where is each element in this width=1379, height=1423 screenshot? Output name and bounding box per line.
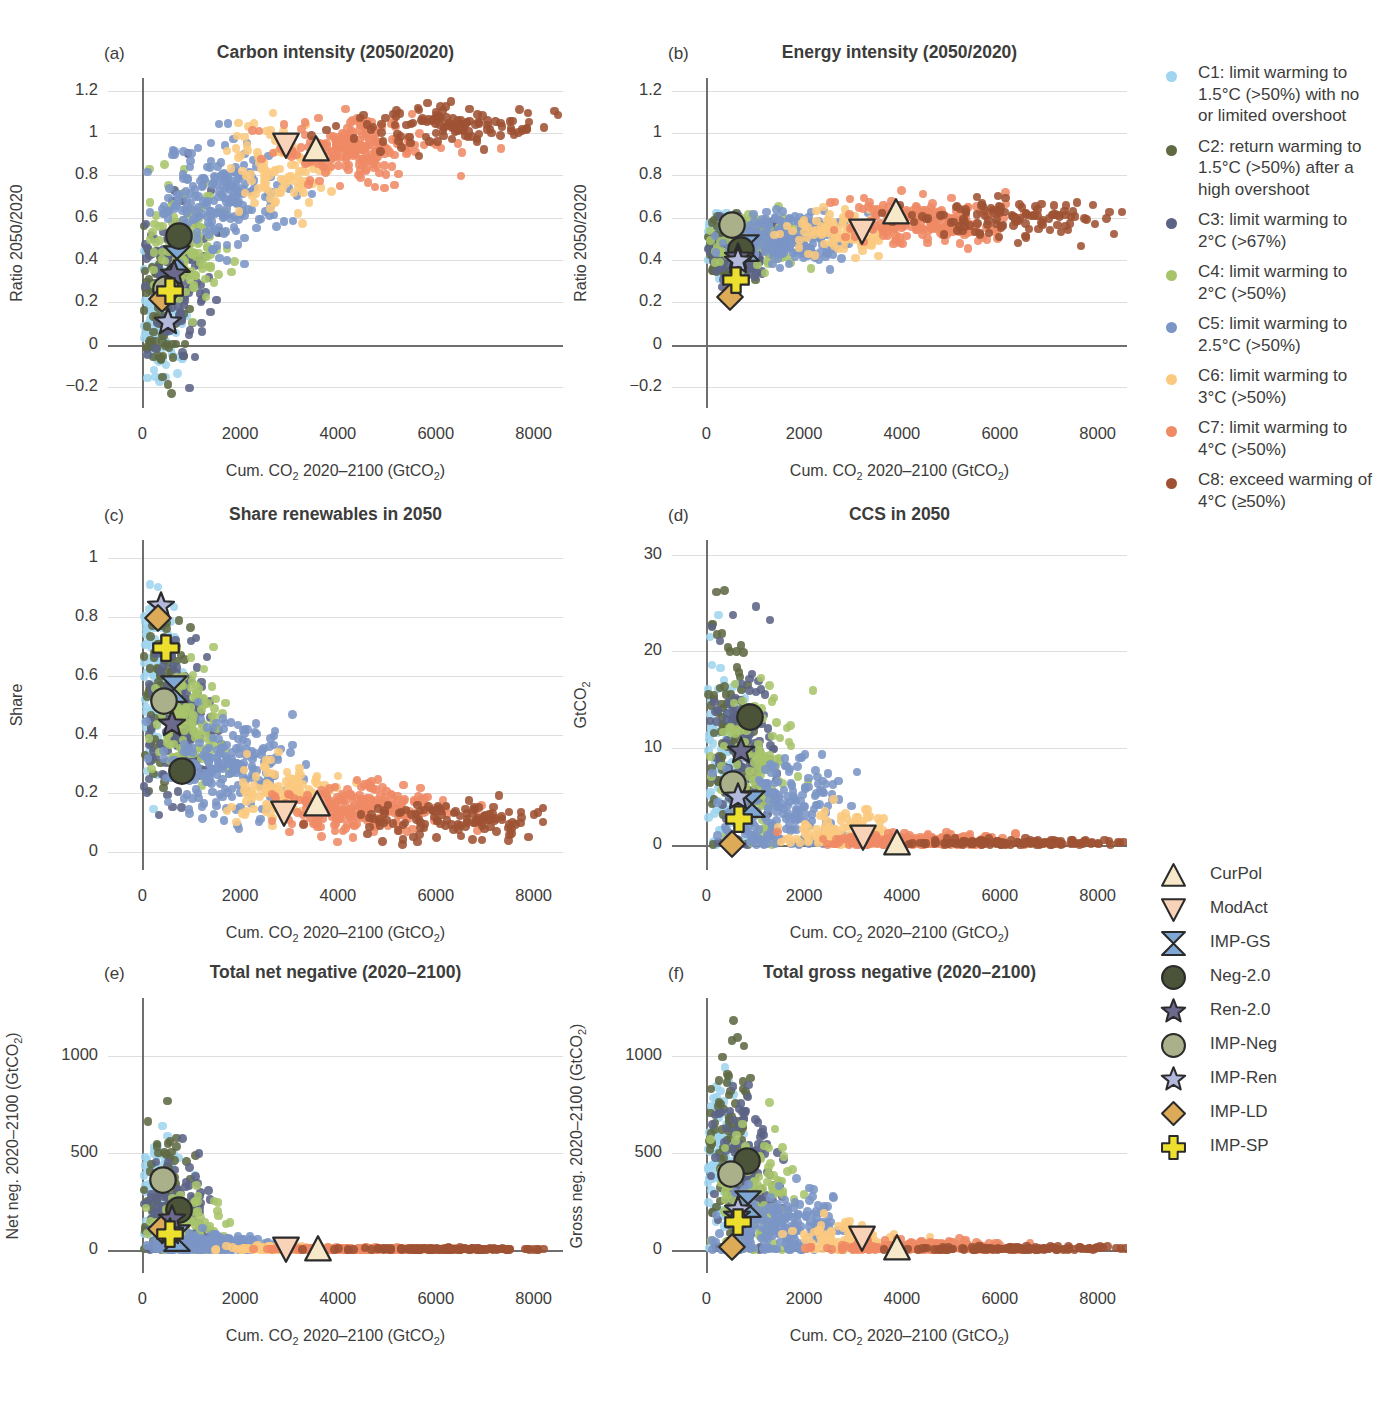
data-point-C4 xyxy=(771,1125,780,1134)
data-point-C8 xyxy=(1103,1242,1112,1251)
y-tick-label: 0 xyxy=(598,1239,662,1258)
data-point-C8 xyxy=(1065,1244,1074,1253)
legend-item-c8[interactable]: C8: exceed warming of 4°C (≥50%) xyxy=(1160,469,1375,512)
data-point-C5 xyxy=(773,1200,782,1209)
y-axis-label: Gross neg. 2020–2100 (GtCO2) xyxy=(568,1023,588,1248)
data-point-C5 xyxy=(708,1245,717,1254)
data-point-C2 xyxy=(718,1053,727,1062)
legend-item-c5[interactable]: C5: limit warming to 2.5°C (>50%) xyxy=(1160,313,1375,356)
data-point-C3 xyxy=(744,1081,753,1090)
x-tick-label: 6000 xyxy=(960,1289,1040,1308)
data-point-C4 xyxy=(780,1152,789,1161)
marker-legend-label: IMP-Neg xyxy=(1210,1034,1277,1054)
data-point-C5 xyxy=(829,1192,838,1201)
data-point-C5 xyxy=(796,1200,805,1209)
gridline xyxy=(672,1056,1127,1057)
data-point-C5 xyxy=(808,1192,817,1201)
data-point-C5 xyxy=(749,1244,758,1253)
marker-legend: CurPolModActIMP-GSNeg-2.0Ren-2.0IMP-NegI… xyxy=(1160,860,1375,1166)
data-point-C4 xyxy=(706,1135,715,1144)
panel-title-f: Total gross negative (2020–2100) xyxy=(672,962,1127,983)
data-point-C4 xyxy=(738,1120,747,1129)
marker-star-icon xyxy=(1160,1066,1200,1096)
x-tick-label: 0 xyxy=(666,1289,746,1308)
scenario-marker-imp-sp xyxy=(723,1207,753,1237)
marker-bowtie-icon xyxy=(1160,930,1200,960)
data-point-C2 xyxy=(740,1042,749,1051)
data-point-C8 xyxy=(993,1245,1002,1254)
data-point-C5 xyxy=(792,1174,801,1183)
marker-legend-label: Ren-2.0 xyxy=(1210,1000,1270,1020)
legend-dot-icon xyxy=(1166,270,1177,281)
marker-legend-item-modact[interactable]: ModAct xyxy=(1160,894,1375,928)
legend-label: C4: limit warming to 2°C (>50%) xyxy=(1198,262,1347,303)
legend-item-c7[interactable]: C7: limit warming to 4°C (>50%) xyxy=(1160,417,1375,460)
data-point-C8 xyxy=(934,1245,943,1254)
data-point-C2 xyxy=(724,1072,733,1081)
marker-triangle-down-icon xyxy=(1160,896,1200,926)
marker-cross-icon xyxy=(1160,1134,1200,1164)
data-point-C8 xyxy=(958,1244,967,1253)
marker-legend-item-imp-ren[interactable]: IMP-Ren xyxy=(1160,1064,1375,1098)
legend-item-c1[interactable]: C1: limit warming to 1.5°C (>50%) with n… xyxy=(1160,62,1375,127)
x-tick-label: 2000 xyxy=(764,1289,844,1308)
data-point-C4 xyxy=(778,1143,787,1152)
x-tick-label: 8000 xyxy=(1058,1289,1138,1308)
scenario-marker-imp-neg xyxy=(716,1159,746,1189)
marker-legend-item-curpol[interactable]: CurPol xyxy=(1160,860,1375,894)
data-point-C8 xyxy=(1117,1244,1126,1253)
legend-item-c4[interactable]: C4: limit warming to 2°C (>50%) xyxy=(1160,261,1375,304)
scenario-marker-modact xyxy=(847,1223,877,1253)
data-point-C8 xyxy=(1096,1242,1105,1251)
legend-label: C6: limit warming to 3°C (>50%) xyxy=(1198,366,1347,407)
data-point-C8 xyxy=(1075,1243,1084,1252)
figure-canvas: (a)Carbon intensity (2050/2020)−0.200.20… xyxy=(0,0,1379,1423)
data-point-C8 xyxy=(1011,1243,1020,1252)
marker-legend-label: CurPol xyxy=(1210,864,1262,884)
legend-item-c3[interactable]: C3: limit warming to 2°C (>67%) xyxy=(1160,209,1375,252)
legend-dot-icon xyxy=(1166,426,1177,437)
data-point-C4 xyxy=(783,1167,792,1176)
marker-legend-label: IMP-SP xyxy=(1210,1136,1269,1156)
marker-legend-item-imp-neg[interactable]: IMP-Neg xyxy=(1160,1030,1375,1064)
legend-label: C5: limit warming to 2.5°C (>50%) xyxy=(1198,314,1347,355)
data-point-C2 xyxy=(707,1085,716,1094)
marker-legend-label: IMP-LD xyxy=(1210,1102,1268,1122)
data-point-C6 xyxy=(788,1227,797,1236)
legend-dot-icon xyxy=(1166,322,1177,333)
data-point-C6 xyxy=(817,1235,826,1244)
data-point-C2 xyxy=(715,1076,724,1085)
category-legend: C1: limit warming to 1.5°C (>50%) with n… xyxy=(1160,62,1375,521)
data-point-C3 xyxy=(744,1093,753,1102)
marker-legend-item-imp-sp[interactable]: IMP-SP xyxy=(1160,1132,1375,1166)
data-point-C3 xyxy=(710,1190,719,1199)
legend-label: C7: limit warming to 4°C (>50%) xyxy=(1198,418,1347,459)
y-tick-label: 1000 xyxy=(598,1045,662,1064)
marker-legend-label: IMP-Ren xyxy=(1210,1068,1277,1088)
data-point-C7 xyxy=(823,1244,832,1253)
data-point-C2 xyxy=(733,1033,742,1042)
data-point-C4 xyxy=(731,1137,740,1146)
marker-legend-label: IMP-GS xyxy=(1210,932,1270,952)
data-point-C3 xyxy=(729,1116,738,1125)
marker-legend-item-imp-ld[interactable]: IMP-LD xyxy=(1160,1098,1375,1132)
data-point-C8 xyxy=(918,1244,927,1253)
data-point-C6 xyxy=(814,1226,823,1235)
plot-area-f xyxy=(672,998,1127,1273)
marker-diamond-icon xyxy=(1160,1100,1200,1130)
marker-legend-label: ModAct xyxy=(1210,898,1268,918)
data-point-C2 xyxy=(729,1016,738,1025)
marker-legend-item-neg-2.0[interactable]: Neg-2.0 xyxy=(1160,962,1375,996)
marker-star-icon xyxy=(1160,998,1200,1028)
legend-item-c6[interactable]: C6: limit warming to 3°C (>50%) xyxy=(1160,365,1375,408)
data-point-C8 xyxy=(981,1246,990,1255)
legend-label: C2: return warming to 1.5°C (>50%) after… xyxy=(1198,137,1361,199)
y-tick-label: 500 xyxy=(598,1142,662,1161)
data-point-C6 xyxy=(820,1209,829,1218)
marker-legend-item-imp-gs[interactable]: IMP-GS xyxy=(1160,928,1375,962)
data-point-C3 xyxy=(708,1120,717,1129)
data-point-C4 xyxy=(765,1098,774,1107)
marker-legend-item-ren-2.0[interactable]: Ren-2.0 xyxy=(1160,996,1375,1030)
scenario-marker-curpol xyxy=(882,1233,912,1263)
legend-item-c2[interactable]: C2: return warming to 1.5°C (>50%) after… xyxy=(1160,136,1375,201)
